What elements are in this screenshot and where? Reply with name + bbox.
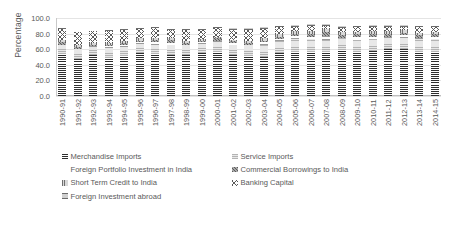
bar-segment xyxy=(431,39,439,51)
x-tick-label: 2014-15 xyxy=(431,99,439,149)
bar-segment xyxy=(74,49,82,58)
bar-segment xyxy=(244,45,252,56)
bar-segment xyxy=(322,40,330,52)
bar-segment xyxy=(260,29,268,38)
bar-segment xyxy=(213,28,221,37)
bar-segment xyxy=(167,45,175,55)
y-tick-label: 40.0 xyxy=(14,60,50,69)
bar-segment xyxy=(275,53,283,96)
legend-swatch-icon xyxy=(62,180,68,186)
legend-item[interactable]: Banking Capital xyxy=(232,178,407,187)
x-tick-label: 2005-06 xyxy=(291,99,299,149)
bar-2007-08[interactable] xyxy=(322,24,330,96)
bar-segment xyxy=(229,45,237,56)
x-tick-label: 1996-97 xyxy=(151,99,159,149)
legend-swatch-icon xyxy=(232,180,238,186)
x-tick-label: 2009-10 xyxy=(353,99,361,149)
y-tick-label: 80.0 xyxy=(14,29,50,38)
bar-2013-14[interactable] xyxy=(415,26,423,96)
bar-1998-99[interactable] xyxy=(182,29,190,96)
bar-segment xyxy=(369,39,377,51)
bar-segment xyxy=(322,52,330,96)
legend-item[interactable]: Foreign Investment abroad xyxy=(62,192,232,201)
legend-label: Service Imports xyxy=(241,152,294,161)
y-tick-label: 60.0 xyxy=(14,45,50,54)
legend-label: Foreign Portfolio Investment in India xyxy=(71,165,193,174)
bar-2000-01[interactable] xyxy=(213,27,221,96)
bar-1994-95[interactable] xyxy=(120,29,128,96)
bar-segment xyxy=(384,49,392,96)
bar-2005-06[interactable] xyxy=(291,25,299,96)
bar-segment xyxy=(120,47,128,56)
x-tick-label: 2008-09 xyxy=(338,99,346,149)
bar-2010-11[interactable] xyxy=(369,25,377,96)
bar-segment xyxy=(198,44,206,53)
bar-segment xyxy=(338,38,346,50)
bar-1991-92[interactable] xyxy=(74,32,82,96)
bar-2014-15[interactable] xyxy=(431,26,439,96)
x-tick-label: 1998-99 xyxy=(182,99,190,149)
bar-segment xyxy=(136,53,144,96)
legend-label: Banking Capital xyxy=(241,178,294,187)
bar-segment xyxy=(431,52,439,96)
legend-row: Merchandise ImportsService Imports xyxy=(62,152,407,161)
bar-2008-09[interactable] xyxy=(338,26,346,96)
bar-segment xyxy=(353,40,361,52)
bar-1996-97[interactable] xyxy=(151,27,159,96)
bar-segment xyxy=(89,47,97,56)
bar-1997-98[interactable] xyxy=(167,29,175,96)
x-tick-label: 2002-03 xyxy=(244,99,252,149)
bar-2004-05[interactable] xyxy=(275,26,283,96)
bar-segment xyxy=(89,31,97,43)
bar-2012-13[interactable] xyxy=(400,25,408,96)
legend-swatch-icon xyxy=(232,167,238,173)
stacked-bar-chart: Percentage 0.020.040.060.080.0100.0 1990… xyxy=(0,0,450,228)
bar-1990-91[interactable] xyxy=(58,28,66,96)
legend-swatch-icon xyxy=(232,154,238,160)
bar-1999-00[interactable] xyxy=(198,29,206,96)
x-axis-tick-labels: 1990-911991-921992-931993-941994-951995-… xyxy=(56,99,441,149)
bar-2001-02[interactable] xyxy=(229,28,237,96)
bar-segment xyxy=(182,30,190,41)
x-tick-label: 2007-08 xyxy=(322,99,330,149)
bar-2006-07[interactable] xyxy=(307,24,315,96)
legend-item[interactable]: Commercial Borrowings to India xyxy=(232,165,407,174)
x-tick-label: 1990-91 xyxy=(58,99,66,149)
bar-segment xyxy=(307,39,315,51)
bar-segment xyxy=(275,41,283,53)
bar-2009-10[interactable] xyxy=(353,26,361,96)
bar-segment xyxy=(167,30,175,39)
bar-2003-04[interactable] xyxy=(260,27,268,96)
bar-segment xyxy=(182,55,190,96)
bar-segment xyxy=(307,52,315,96)
bar-1993-94[interactable] xyxy=(105,30,113,96)
legend-row: Foreign Investment abroad xyxy=(62,192,407,201)
legend-swatch-icon xyxy=(62,167,68,173)
x-tick-label: 1991-92 xyxy=(74,99,82,149)
bar-segment xyxy=(400,49,408,96)
bar-segment xyxy=(151,28,159,37)
bar-2011-12[interactable] xyxy=(384,25,392,96)
bar-segment xyxy=(74,32,82,44)
bar-2002-03[interactable] xyxy=(244,28,252,96)
bar-segment xyxy=(244,30,252,41)
x-tick-label: 2001-02 xyxy=(229,99,237,149)
legend-item[interactable]: Short Term Credit to India xyxy=(62,178,232,187)
bar-segment xyxy=(260,45,268,57)
bar-segment xyxy=(105,31,113,43)
legend-item[interactable]: Foreign Portfolio Investment in India xyxy=(62,165,232,174)
bar-segment xyxy=(353,52,361,96)
legend-item[interactable]: Service Imports xyxy=(232,152,407,161)
bar-1995-96[interactable] xyxy=(136,28,144,96)
bar-segment xyxy=(136,44,144,53)
bar-segment xyxy=(291,39,299,51)
bar-segment xyxy=(74,59,82,96)
legend-label: Merchandise Imports xyxy=(71,152,142,161)
bar-1992-93[interactable] xyxy=(89,31,97,96)
x-tick-label: 1993-94 xyxy=(105,99,113,149)
x-tick-label: 1995-96 xyxy=(136,99,144,149)
x-tick-label: 2010-11 xyxy=(369,99,377,149)
legend-item[interactable]: Merchandise Imports xyxy=(62,152,232,161)
bar-segment xyxy=(260,57,268,96)
bar-segment xyxy=(105,58,113,96)
